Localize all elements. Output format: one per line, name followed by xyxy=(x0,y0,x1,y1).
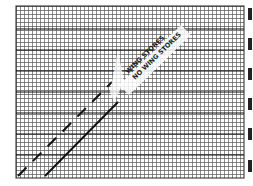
right-edge-mark xyxy=(248,38,252,50)
right-edge-mark xyxy=(248,68,252,80)
right-edge-mark xyxy=(248,98,252,110)
right-edge-mark xyxy=(248,160,252,172)
right-edge-mark xyxy=(248,128,252,140)
right-edge-mark xyxy=(248,8,252,20)
chart-plot: WING STORES NO WING STORES xyxy=(0,0,253,186)
